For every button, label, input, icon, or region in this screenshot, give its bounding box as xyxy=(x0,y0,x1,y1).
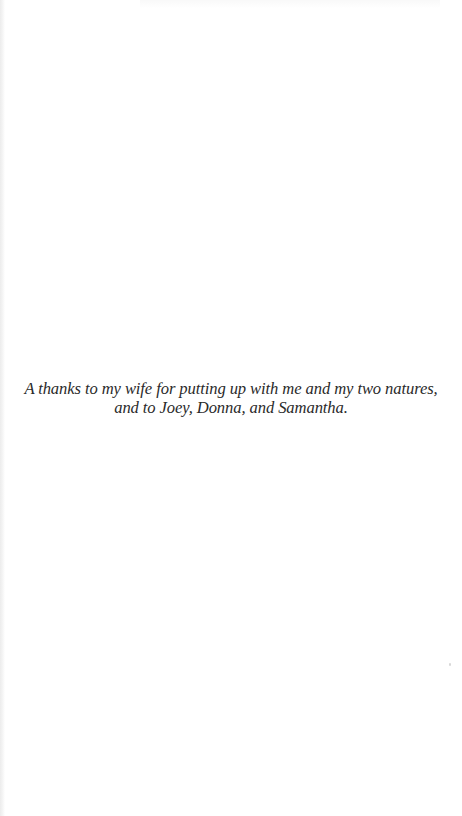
scan-bleed-through xyxy=(140,0,440,8)
dedication-text: A thanks to my wife for putting up with … xyxy=(0,379,462,417)
dedication-line-1: A thanks to my wife for putting up with … xyxy=(0,379,462,398)
dedication-line-2: and to Joey, Donna, and Samantha. xyxy=(0,398,462,417)
book-page: A thanks to my wife for putting up with … xyxy=(0,0,462,816)
scan-speck xyxy=(449,663,451,666)
